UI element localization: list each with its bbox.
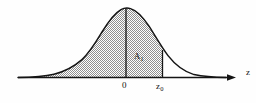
area-label-subscript: 1 bbox=[140, 56, 143, 62]
x-axis-label-text: z bbox=[246, 67, 250, 77]
x-axis-label: z bbox=[246, 68, 250, 77]
tick-label-z0: z0 bbox=[156, 82, 163, 91]
x-axis-arrowhead bbox=[227, 74, 236, 81]
tick-label-z0-subscript: 0 bbox=[160, 85, 163, 92]
tick-label-zero: 0 bbox=[122, 81, 127, 90]
shaded-area-A1 bbox=[18, 8, 163, 77]
tick-label-zero-text: 0 bbox=[122, 80, 127, 90]
normal-curve-figure: A1 0 z0 z bbox=[0, 0, 256, 103]
area-label-A1: A1 bbox=[134, 52, 143, 61]
normal-curve-svg bbox=[0, 0, 256, 103]
